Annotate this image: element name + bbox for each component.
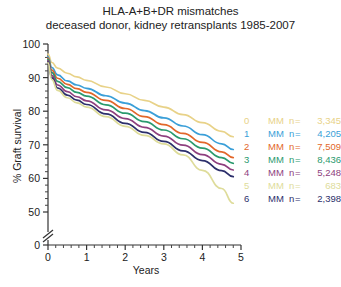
legend-mm-count: 1 (244, 127, 268, 140)
x-tick-label: 1 (84, 251, 90, 263)
legend-equals: = (295, 166, 305, 179)
legend-n-value: 8,436 (305, 153, 341, 166)
legend-equals: = (295, 179, 305, 192)
legend-row-0mm: 0MMn=3,345 (244, 114, 341, 127)
y-axis-label: % Graft survival (11, 98, 23, 194)
legend-mm-count: 0 (244, 114, 268, 127)
curve-3-mm (48, 59, 233, 163)
legend-mm-unit: MM (268, 153, 289, 166)
legend-row-5mm: 5MMn=683 (244, 179, 341, 192)
legend-n-value: 2,398 (305, 192, 341, 205)
legend-row-1mm: 1MMn=4,205 (244, 127, 341, 140)
x-axis-label: Years (48, 264, 244, 276)
legend-mm-count: 2 (244, 140, 268, 153)
legend-mm-count: 6 (244, 192, 268, 205)
chart-root: HLA-A+B+DR mismatches deceased donor, ki… (0, 0, 341, 287)
legend-row-2mm: 2MMn=7,509 (244, 140, 341, 153)
curve-0-mm (48, 54, 233, 137)
legend-mm-count: 5 (244, 179, 268, 192)
legend-mm-unit: MM (268, 127, 289, 140)
y-tick-label: 90 (28, 72, 40, 84)
legend: 0MMn=3,3451MMn=4,2052MMn=7,5093MMn=8,436… (244, 114, 341, 205)
x-tick-label: 5 (238, 251, 244, 263)
legend-n-value: 3,345 (305, 114, 341, 127)
legend-equals: = (295, 127, 305, 140)
legend-n-value: 5,248 (305, 166, 341, 179)
y-tick-label: 60 (28, 172, 40, 184)
legend-mm-count: 4 (244, 166, 268, 179)
y-tick-label: 50 (28, 206, 40, 218)
x-tick-label: 0 (45, 251, 51, 263)
legend-mm-unit: MM (268, 114, 289, 127)
legend-mm-count: 3 (244, 153, 268, 166)
legend-mm-unit: MM (268, 166, 289, 179)
legend-equals: = (295, 114, 305, 127)
legend-mm-unit: MM (268, 192, 289, 205)
legend-mm-unit: MM (268, 179, 289, 192)
y-tick-label: 70 (28, 139, 40, 151)
legend-row-3mm: 3MMn=8,436 (244, 153, 341, 166)
x-tick-label: 4 (199, 251, 205, 263)
legend-n-value: 7,509 (305, 140, 341, 153)
legend-equals: = (295, 140, 305, 153)
x-tick-label: 3 (161, 251, 167, 263)
y-tick-label-0: 0 (34, 239, 40, 251)
legend-row-4mm: 4MMn=5,248 (244, 166, 341, 179)
legend-equals: = (295, 153, 305, 166)
curve-6-mm (48, 62, 233, 177)
y-tick-label: 100 (22, 38, 40, 50)
y-tick-label: 80 (28, 105, 40, 117)
legend-n-value: 683 (305, 179, 341, 192)
legend-equals: = (295, 192, 305, 205)
curves-layer (48, 54, 233, 203)
curve-2-mm (48, 58, 233, 157)
legend-row-6mm: 6MMn=2,398 (244, 192, 341, 205)
x-tick-label: 2 (122, 251, 128, 263)
legend-n-value: 4,205 (305, 127, 341, 140)
legend-mm-unit: MM (268, 140, 289, 153)
curve-5-mm (48, 63, 233, 203)
